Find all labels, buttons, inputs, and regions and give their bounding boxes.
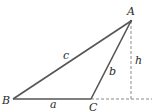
- vertex-label-a: A: [126, 5, 135, 18]
- triangle-diagram: A B C a b c h: [0, 0, 152, 112]
- vertex-label-b: B: [1, 94, 10, 107]
- vertex-a-dot: [130, 20, 132, 22]
- vertex-label-c: C: [89, 101, 98, 112]
- side-label-c: c: [63, 49, 69, 62]
- side-label-b: b: [109, 65, 116, 78]
- side-c: [13, 21, 131, 99]
- side-label-a: a: [50, 98, 57, 111]
- side-b: [91, 21, 131, 99]
- altitude-label-h: h: [135, 54, 142, 67]
